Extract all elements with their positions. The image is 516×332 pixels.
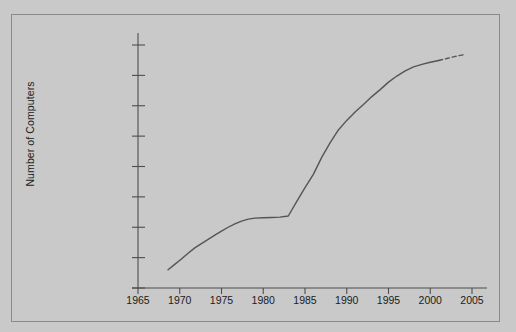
x-axis-tick-label: 2000 [419,294,442,306]
x-axis-tick-label: 1995 [377,294,400,306]
chart-plot-area [0,0,516,332]
x-axis-tick-label: 1975 [210,294,233,306]
x-axis-tick-label: 1965 [126,294,149,306]
x-axis-tick-label: 1985 [293,294,316,306]
data-series-line [439,55,464,61]
x-axis-tick-label: 2005 [460,294,483,306]
x-axis-tick-label: 1990 [335,294,358,306]
data-series-line [168,60,439,269]
x-axis-tick-label: 1980 [252,294,275,306]
x-axis-tick-label: 1970 [168,294,191,306]
